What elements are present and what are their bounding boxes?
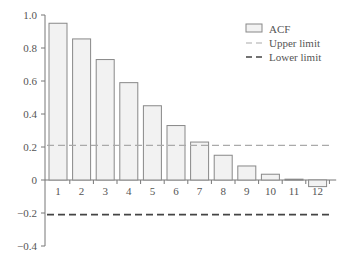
acf-bar xyxy=(167,126,185,180)
acf-bar xyxy=(49,23,67,180)
x-tick-label: 1 xyxy=(55,185,61,197)
acf-bar xyxy=(191,142,209,180)
acf-bar xyxy=(238,166,256,180)
y-tick-label: −0.2 xyxy=(17,207,37,219)
y-tick-label: −0.4 xyxy=(17,240,37,252)
x-tick-label: 3 xyxy=(102,185,108,197)
acf-bar xyxy=(73,39,91,180)
x-tick-label: 4 xyxy=(126,185,132,197)
x-tick-label: 10 xyxy=(265,185,277,197)
legend-label: Upper limit xyxy=(269,37,320,49)
x-tick-label: 5 xyxy=(150,185,156,197)
y-tick-label: 0 xyxy=(32,174,38,186)
acf-bar xyxy=(120,83,138,180)
legend-label: ACF xyxy=(269,23,290,35)
acf-bar xyxy=(285,179,303,180)
x-tick-label: 6 xyxy=(173,185,179,197)
x-tick-labels: 123456789101112 xyxy=(55,185,323,197)
x-tick-label: 8 xyxy=(220,185,226,197)
acf-bar xyxy=(214,155,232,180)
legend: ACFUpper limitLower limit xyxy=(246,23,321,63)
acf-bar xyxy=(261,174,279,180)
acf-bar xyxy=(143,106,161,180)
y-tick-label: 0.8 xyxy=(23,42,37,54)
x-tick-label: 2 xyxy=(79,185,85,197)
y-tick-label: 1.0 xyxy=(23,9,37,21)
y-tick-label: 0.4 xyxy=(23,108,37,120)
x-tick-label: 12 xyxy=(312,185,323,197)
acf-bar xyxy=(96,60,114,180)
legend-label: Lower limit xyxy=(269,51,321,63)
x-tick-label: 7 xyxy=(197,185,203,197)
x-tick-label: 11 xyxy=(289,185,300,197)
legend-swatch-acf xyxy=(246,24,262,32)
y-tick-label: 0.2 xyxy=(23,141,37,153)
y-tick-label: 0.6 xyxy=(23,75,37,87)
acf-chart: 1.00.80.60.40.20−0.2−0.4 123456789101112… xyxy=(0,0,348,262)
x-tick-label: 9 xyxy=(244,185,250,197)
